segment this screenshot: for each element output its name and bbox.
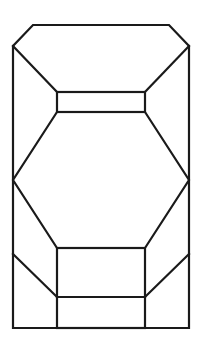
central-hexagon [13,112,189,248]
prism-diagram [0,0,209,347]
lower-left-diagonal [13,254,57,297]
lower-inner-rectangle [57,248,145,328]
diagram-canvas [0,0,209,347]
outer-outline [13,25,189,328]
upper-inner-rectangle [57,92,145,112]
upper-right-diagonal [145,46,189,92]
lower-right-diagonal [145,254,189,297]
upper-left-diagonal [13,46,57,92]
